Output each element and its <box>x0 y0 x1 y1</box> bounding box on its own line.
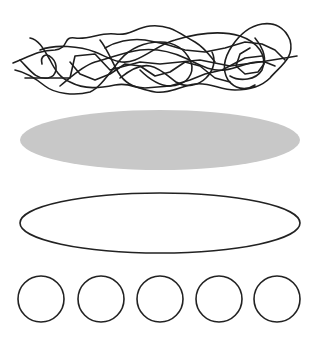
circle-5 <box>254 276 300 322</box>
circle-3 <box>137 276 183 322</box>
drawing-canvas <box>0 0 317 344</box>
outlined-ellipse <box>20 193 300 253</box>
scribble <box>13 24 297 94</box>
filled-ellipse <box>20 110 300 170</box>
circle-row <box>18 276 300 322</box>
circle-4 <box>196 276 242 322</box>
circle-2 <box>78 276 124 322</box>
circle-1 <box>18 276 64 322</box>
